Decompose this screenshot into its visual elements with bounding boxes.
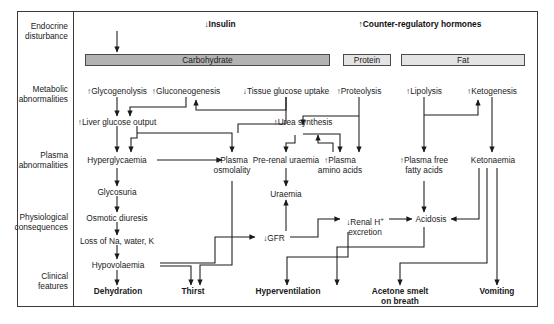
row-label-endocrine-line1: Endocrine [31,21,68,31]
row-label-clinical-line1: Clinical [41,271,68,281]
node-lipolysis: ↑Lipolysis [400,86,448,96]
node-loss-of-na-water-k: Loss of Na, water, K [68,236,166,246]
row-label-plasma-line1: Plasma [40,150,68,160]
category-box-protein: Protein [343,54,391,66]
category-box-fat: Fat [401,54,525,66]
node-acidosis: Acidosis [410,214,452,224]
node-ketonaemia: Ketonaemia [462,155,524,165]
node-plasma-amino-acids-line2: amino acids [318,165,362,175]
row-label-physiological-line2: consequences [14,222,68,232]
row-label-plasma-line2: abnormalities [19,160,68,170]
node-plasma-osmolality-line1: ↑Plasma [216,155,248,165]
node-vomiting: Vomiting [473,286,521,296]
row-label-metabolic-line2: abnormalities [19,94,68,104]
row-label-endocrine-line2: disturbance [25,31,68,41]
header-counter-regulatory-hormones: ↑Counter-regulatory hormones [325,19,515,29]
node-hyperventilation: Hyperventilation [250,286,326,296]
node-hypovolaemia: Hypovolaemia [85,260,151,270]
node-liver-glucose-output: ↑Liver glucose output [69,117,165,127]
node-renal-h-excretion: ↓Renal H+ excretion [340,214,390,237]
node-dehydration: Dehydration [82,286,154,296]
row-label-plasma: Plasma abnormalities [16,150,68,171]
dka-pathophysiology-diagram: ↓Insulin ↑Counter-regulatory hormones En… [0,0,554,324]
node-glycosuria: Glycosuria [89,187,145,197]
row-label-metabolic: Metabolic abnormalities [16,84,68,105]
node-thirst: Thirst [175,286,211,296]
node-acetone-smelt-line2: on breath [381,296,419,306]
node-plasma-osmolality-line2: osmolality [214,165,251,175]
node-plasma-amino-acids: ↑Plasma amino acids [313,155,367,175]
node-renal-h-excretion-line1: ↓Renal H [346,217,380,227]
node-renal-h-excretion-line2: excretion [348,227,382,237]
node-plasma-amino-acids-line1: ↑Plasma [324,155,356,165]
node-tissue-glucose-uptake: ↓Tissue glucose uptake [230,86,342,96]
category-box-carbohydrate: Carbohydrate [85,54,330,66]
row-label-clinical-line2: features [38,281,68,291]
node-proteolysis: ↑Proteolysis [330,86,388,96]
node-gfr: ↓GFR [258,233,290,243]
node-hyperglycaemia: Hyperglycaemia [78,155,156,165]
node-gluconeogenesis: ↑Gluconeogenesis [142,86,230,96]
node-acetone-smelt-on-breath: Acetone smelt on breath [365,286,435,306]
node-ketogenesis: ↑Ketogenesis [463,86,521,96]
row-label-divider [73,11,74,307]
node-urea-synthesis: ↑Urea synthesis [268,117,338,127]
row-label-endocrine: Endocrine disturbance [20,21,68,42]
header-insulin: ↓Insulin [165,19,275,29]
node-renal-h-superscript: + [380,215,384,222]
row-label-physiological: Physiological consequences [10,212,68,233]
node-osmotic-diuresis: Osmotic diuresis [79,213,155,223]
row-label-physiological-line1: Physiological [20,212,68,222]
node-plasma-free-fatty-acids-line1: ↑Plasma free [400,155,448,165]
node-plasma-free-fatty-acids: ↑Plasma free fatty acids [392,155,456,175]
node-acetone-smelt-line1: Acetone smelt [372,286,429,296]
row-label-metabolic-line1: Metabolic [32,84,68,94]
row-label-clinical: Clinical features [16,271,68,292]
node-uraemia: Uraemia [262,189,310,199]
node-plasma-free-fatty-acids-line2: fatty acids [405,165,442,175]
